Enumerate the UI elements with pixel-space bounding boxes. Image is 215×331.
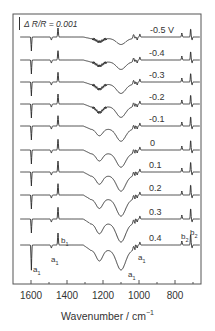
x-tick-label: 1600 [20,291,42,301]
spectrum-trace [20,116,200,142]
potential-label: 0.4 [149,234,162,243]
potential-label: -0.2 [149,93,165,102]
x-tick-label: 800 [167,291,184,301]
spectrum-trace [20,233,200,270]
scale-bar: Δ R/R = 0.001 [19,19,77,29]
spectrum-trace [20,139,200,167]
potential-label: 0.2 [149,184,162,193]
spectrum-trace [20,94,200,118]
potential-label: -0.3 [149,71,165,80]
scale-label: R/R = 0.001 [32,19,78,29]
annotation-b1-1450: b1 [61,237,69,247]
spectra-traces [20,28,200,270]
annotation-b2-713: b2 [190,229,198,239]
spectra-plot [0,0,215,331]
annotation-a1-1090: a1 [128,271,136,281]
x-axis-ticks [31,280,193,284]
x-tick-label: 1200 [92,291,114,301]
scale-delta: Δ [24,19,29,29]
spectrum-trace [20,72,200,96]
potential-label: -0.5 V [150,26,174,35]
potential-label: -0.1 [149,115,165,124]
spectrum-trace [20,161,200,191]
annotation-a1-1010: a1 [138,254,146,264]
potential-label: 0 [150,139,155,148]
annotation-b2-760: b2 [181,233,189,243]
scale-bar-line [19,17,20,30]
potential-label: 0.3 [149,208,162,217]
potential-label: 0.1 [149,161,162,170]
spectrum-trace [20,184,200,216]
plot-frame [13,14,201,284]
x-tick-label: 1000 [128,291,150,301]
x-axis-label: Wavenumber / cm−1 [61,309,154,322]
annotation-a1-1600: a1 [33,266,41,276]
spectrum-trace [20,207,200,242]
spectrum-trace [20,51,200,74]
potential-label: -0.4 [149,49,165,58]
x-tick-label: 1400 [56,291,78,301]
annotation-a1-1487: a1 [51,256,59,266]
